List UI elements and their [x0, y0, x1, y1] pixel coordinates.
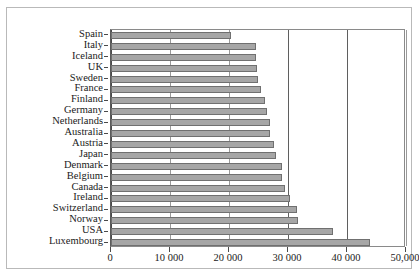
- plot-frame: SpainItalyIcelandUKSwedenFranceFinlandGe…: [22, 14, 396, 244]
- bar-fill: [111, 54, 256, 61]
- y-tick-mark: [104, 231, 108, 232]
- bar-canada: [111, 185, 285, 192]
- y-tick-mark: [104, 154, 108, 155]
- bar-fill: [111, 185, 285, 192]
- y-tick-label-denmark: Denmark: [64, 160, 103, 170]
- y-tick-mark: [104, 45, 108, 46]
- y-axis-category-labels: SpainItalyIcelandUKSwedenFranceFinlandGe…: [22, 29, 108, 247]
- y-tick-label-belgium: Belgium: [67, 171, 103, 181]
- bar-belgium: [111, 174, 282, 181]
- bar-netherlands: [111, 119, 270, 126]
- plot-area: [110, 29, 405, 247]
- chart-figure: SpainItalyIcelandUKSwedenFranceFinlandGe…: [0, 0, 419, 277]
- x-tick-mark: [169, 247, 170, 252]
- y-tick-label-japan: Japan: [79, 149, 103, 159]
- bar-spain: [111, 32, 231, 39]
- y-tick-mark: [104, 143, 108, 144]
- bar-fill: [111, 239, 370, 246]
- y-tick-label-ireland: Ireland: [73, 192, 103, 202]
- x-tick-mark: [110, 247, 111, 252]
- y-tick-label-finland: Finland: [71, 94, 103, 104]
- bar-fill: [111, 163, 282, 170]
- x-tick-mark: [346, 247, 347, 252]
- bar-series: [111, 30, 404, 246]
- bar-norway: [111, 217, 298, 224]
- bar-italy: [111, 43, 256, 50]
- bar-austria: [111, 141, 274, 148]
- y-tick-label-netherlands: Netherlands: [52, 116, 103, 126]
- x-tick-mark: [287, 247, 288, 252]
- bar-denmark: [111, 163, 282, 170]
- bar-switzerland: [111, 206, 297, 213]
- y-tick-label-spain: Spain: [79, 29, 103, 39]
- y-tick-label-canada: Canada: [72, 182, 104, 192]
- y-tick-mark: [104, 187, 108, 188]
- y-tick-mark: [104, 111, 108, 112]
- y-tick-label-luxembourg: Luxembourg: [49, 236, 103, 246]
- y-tick-label-france: France: [74, 83, 103, 93]
- bar-fill: [111, 32, 231, 39]
- bar-fill: [111, 65, 257, 72]
- y-tick-mark: [104, 165, 108, 166]
- y-tick-mark: [104, 198, 108, 199]
- bar-finland: [111, 97, 265, 104]
- y-tick-mark: [104, 100, 108, 101]
- x-tick-label-10000: 10 000: [155, 252, 184, 264]
- bar-usa: [111, 228, 333, 235]
- bar-fill: [111, 97, 265, 104]
- bar-fill: [111, 130, 270, 137]
- y-tick-mark: [104, 56, 108, 57]
- x-tick-label-40000: 40 000: [332, 252, 361, 264]
- bar-fill: [111, 43, 256, 50]
- bar-fill: [111, 195, 290, 202]
- bar-uk: [111, 65, 257, 72]
- y-tick-label-norway: Norway: [69, 214, 103, 224]
- x-axis-tick-labels: 010 00020 00030 00040 00050,000: [110, 252, 405, 268]
- y-tick-mark: [104, 176, 108, 177]
- x-tick-label-30000: 30 000: [273, 252, 302, 264]
- y-tick-mark: [104, 242, 108, 243]
- bar-fill: [111, 86, 261, 93]
- y-tick-label-uk: UK: [88, 62, 103, 72]
- x-tick-label-0: 0: [107, 252, 112, 264]
- bar-fill: [111, 152, 276, 159]
- x-tick-mark: [228, 247, 229, 252]
- y-tick-mark: [104, 220, 108, 221]
- y-tick-label-austria: Austria: [72, 138, 103, 148]
- bar-france: [111, 86, 261, 93]
- x-tick-label-20000: 20 000: [214, 252, 243, 264]
- y-tick-mark: [104, 133, 108, 134]
- y-tick-label-iceland: Iceland: [72, 51, 103, 61]
- bar-fill: [111, 108, 267, 115]
- y-tick-mark: [104, 34, 108, 35]
- bar-sweden: [111, 76, 258, 83]
- bar-fill: [111, 174, 282, 181]
- y-tick-mark: [104, 89, 108, 90]
- bar-fill: [111, 206, 297, 213]
- bar-fill: [111, 119, 270, 126]
- y-tick-mark: [104, 78, 108, 79]
- bar-fill: [111, 228, 333, 235]
- y-tick-mark: [104, 122, 108, 123]
- bar-luxembourg: [111, 239, 370, 246]
- bar-ireland: [111, 195, 290, 202]
- y-tick-label-italy: Italy: [84, 40, 103, 50]
- bar-iceland: [111, 54, 256, 61]
- y-tick-mark: [104, 209, 108, 210]
- bar-fill: [111, 76, 258, 83]
- bar-japan: [111, 152, 276, 159]
- bar-fill: [111, 141, 274, 148]
- y-tick-label-switzerland: Switzerland: [53, 203, 103, 213]
- y-tick-label-usa: USA: [82, 225, 103, 235]
- y-tick-mark: [104, 67, 108, 68]
- y-tick-label-australia: Australia: [65, 127, 104, 137]
- x-tick-mark: [405, 247, 406, 252]
- bar-fill: [111, 217, 298, 224]
- y-tick-label-sweden: Sweden: [70, 73, 103, 83]
- bar-australia: [111, 130, 270, 137]
- bar-germany: [111, 108, 267, 115]
- y-tick-label-germany: Germany: [64, 105, 103, 115]
- x-tick-label-50000: 50,000: [391, 252, 419, 264]
